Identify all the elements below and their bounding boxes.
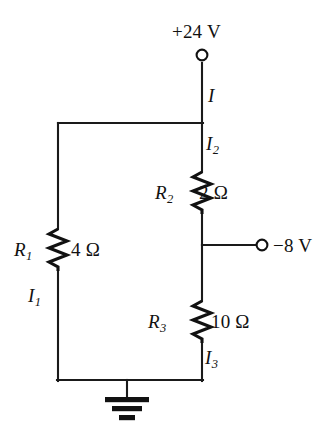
current-i2-subscript: 2 [212,143,219,157]
current-label-i: I [208,86,215,108]
current-label-i3: I3 [205,348,218,370]
resistor-r3-designator-label: R3 [148,312,166,334]
supply-n8v-label: −8 V [273,236,312,255]
r2-designator: R [155,182,167,203]
r1-subscript: 1 [26,249,33,263]
wire-group [57,63,256,399]
supply-24v-label: +24 V [172,22,221,41]
resistor-r1-value-label: 4 Ω [71,240,100,259]
ground-bar-2 [112,406,142,411]
circuit-schematic-canvas [0,0,332,441]
resistor-r1-zigzag [49,229,67,271]
r3-subscript: 3 [160,321,167,335]
ground-bar-1 [105,397,149,402]
r1-designator: R [14,239,26,260]
current-i1-subscript: 1 [34,295,41,309]
resistor-r3-value-label: 10 Ω [211,312,250,331]
circuit-diagram: +24 V −8 V I I2 I1 I3 R1 R2 R3 4 Ω 2 Ω 1… [0,0,332,441]
r3-designator: R [148,311,160,332]
r2-subscript: 2 [167,192,174,206]
resistor-r2-designator-label: R2 [155,183,173,205]
ground-symbol-icon [105,397,149,420]
supply-24v-terminal-circle-icon [197,50,208,61]
current-i3-subscript: 3 [211,357,218,371]
ground-bar-3 [119,415,135,420]
resistor-r3-zigzag [193,301,211,343]
current-label-i2: I2 [206,134,219,156]
resistor-r1-designator-label: R1 [14,240,32,262]
current-label-i1: I1 [28,286,41,308]
supply-n8v-terminal-circle-icon [257,240,268,251]
resistor-r2-value-label: 2 Ω [199,183,228,202]
